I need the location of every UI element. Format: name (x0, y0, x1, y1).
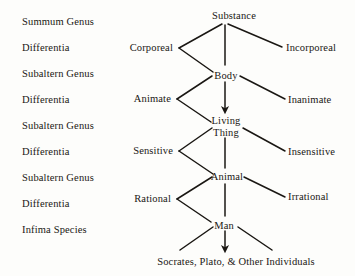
branch-label-insensitive: Insensitive (288, 146, 335, 158)
edge-rational-man (177, 199, 211, 222)
branch-label-incorporeal: Incorporeal (286, 42, 336, 54)
left-label-subaltern-genus-3: Subaltern Genus (22, 172, 94, 184)
edge-animate-livingthing (177, 99, 211, 122)
edge-sensitive-animal (179, 151, 213, 174)
bottom-label-individuals: Socrates, Plato, & Other Individuals (157, 256, 315, 268)
node-living-thing: Living Thing (212, 115, 241, 139)
left-label-subaltern-genus-1: Subaltern Genus (22, 68, 94, 80)
edge-corporeal-body (179, 48, 213, 72)
branch-label-sensitive: Sensitive (133, 145, 173, 157)
edge-livingthing-sensitive (179, 128, 212, 151)
branch-label-animate: Animate (134, 93, 171, 105)
edge-body-animate (177, 76, 212, 99)
left-label-differentia-1: Differentia (22, 42, 70, 54)
left-label-differentia-2: Differentia (22, 94, 70, 106)
branch-label-inanimate: Inanimate (288, 94, 331, 106)
edge-animal-rational (177, 177, 212, 199)
edge-livingthing-insensitive (243, 128, 285, 151)
node-body: Body (214, 70, 237, 82)
branch-label-irrational: Irrational (288, 191, 329, 203)
node-man: Man (214, 220, 234, 232)
branch-label-corporeal: Corporeal (130, 42, 173, 54)
left-label-differentia-4: Differentia (22, 198, 70, 210)
node-living-thing-line1: Living (212, 115, 241, 127)
left-label-summum-genus: Summum Genus (22, 16, 94, 28)
edge-body-inanimate (240, 76, 285, 99)
edge-substance-corporeal (179, 24, 222, 48)
left-label-differentia-3: Differentia (22, 146, 70, 158)
edge-animal-irrational (244, 177, 285, 197)
porphyrian-tree-diagram: Summum Genus Differentia Subaltern Genus… (0, 0, 355, 276)
node-animal: Animal (211, 171, 243, 183)
left-label-subaltern-genus-2: Subaltern Genus (22, 120, 94, 132)
node-substance: Substance (212, 10, 256, 22)
branch-label-rational: Rational (134, 193, 171, 205)
node-living-thing-line2: Thing (212, 127, 241, 139)
edge-substance-incorporeal (228, 24, 282, 47)
left-label-infima-species: Infima Species (22, 224, 87, 236)
edge-man-left-individuals (180, 227, 213, 250)
edge-man-right-individuals (238, 227, 272, 250)
